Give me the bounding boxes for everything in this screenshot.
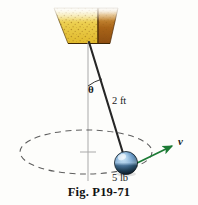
figure-caption: Fig. P19-71 bbox=[0, 185, 198, 200]
cord-length-label: 2 ft bbox=[112, 96, 126, 107]
figure-drawing bbox=[0, 0, 198, 205]
velocity-vector-arrow bbox=[133, 146, 172, 165]
support-top-fade bbox=[50, 5, 124, 21]
angle-label: θ bbox=[88, 84, 94, 95]
ceiling-support-bracket bbox=[50, 5, 124, 44]
ball-weight-label: 5 lb bbox=[112, 173, 128, 184]
velocity-label: v bbox=[178, 136, 183, 147]
figure-container: θ 2 ft 5 lb v Fig. P19-71 bbox=[0, 0, 198, 205]
ball-band bbox=[115, 152, 137, 174]
